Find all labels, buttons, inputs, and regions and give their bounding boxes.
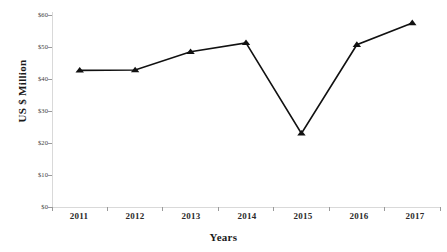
data-point-marker-2014 — [242, 39, 250, 45]
data-point-marker-2017 — [408, 20, 416, 26]
data-point-marker-2015 — [297, 130, 305, 136]
line-chart: US $ Million $60 $50 $40 $30 $20 $10 $0 … — [0, 0, 447, 252]
data-point-markers — [76, 20, 417, 136]
plot-area — [0, 0, 447, 252]
